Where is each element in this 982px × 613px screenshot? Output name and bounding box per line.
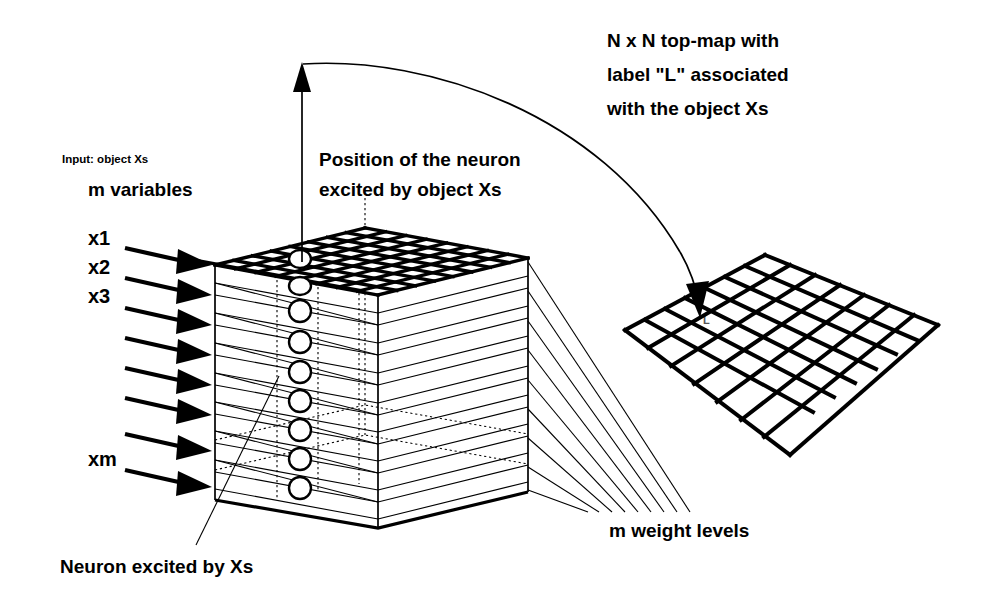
input-arrow — [125, 308, 212, 334]
topmap-caption-line1: N x N top-map with — [607, 30, 779, 51]
input-arrow — [125, 470, 212, 496]
input-arrow — [125, 398, 212, 424]
input-label-x2: x2 — [88, 256, 110, 278]
neuron-column — [289, 250, 311, 499]
variables-caption: m variables — [88, 179, 193, 200]
som-architecture-diagram: Input: object Xs m variables Position of… — [0, 0, 982, 613]
neuron-circle — [289, 477, 311, 499]
weight-levels-caption: m weight levels — [609, 520, 749, 541]
topmap-caption-line3: with the object Xs — [606, 98, 769, 119]
input-arrow — [125, 434, 212, 460]
input-label-x1: x1 — [88, 227, 110, 249]
neuron-circle — [289, 361, 311, 383]
position-caption-line1: Position of the neuron — [319, 149, 521, 170]
input-arrow — [125, 278, 212, 304]
topmap-caption-line2: label "L" associated — [607, 64, 789, 85]
input-caption: Input: object Xs — [62, 153, 148, 165]
top-map-grid — [625, 255, 938, 455]
input-arrow-group — [125, 248, 212, 496]
neuron-circle — [289, 390, 311, 412]
neuron-leader-line — [196, 376, 279, 545]
cube-top-grid — [196, 228, 528, 295]
cube-layer-thickness — [215, 276, 528, 519]
neuron-excited-caption: Neuron excited by Xs — [60, 556, 253, 577]
neuron-circle — [289, 250, 311, 268]
input-arrow — [125, 368, 212, 394]
neuron-circle — [289, 277, 311, 295]
cube-layer-separators — [215, 288, 528, 502]
position-arrow — [293, 62, 311, 262]
position-caption-line2: excited by object Xs — [319, 179, 502, 200]
input-label-x3: x3 — [88, 285, 110, 307]
neuron-circle — [289, 300, 311, 322]
weight-level-fan — [528, 262, 690, 512]
diagram-canvas: Input: object Xs m variables Position of… — [0, 0, 982, 613]
neuron-circle — [289, 331, 311, 353]
top-map-lines-b — [625, 255, 938, 455]
position-arrow-head — [293, 62, 311, 92]
input-arrow — [125, 338, 212, 364]
neuron-circle — [289, 448, 311, 470]
neuron-circle — [289, 419, 311, 441]
input-label-xm: xm — [88, 448, 117, 470]
